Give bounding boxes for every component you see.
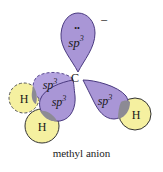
hydrogen-label-back: H [20, 92, 29, 106]
hydrogen-label-front: H [38, 120, 47, 134]
carbon-label: C [71, 71, 79, 85]
hydrogen-label-right: H [132, 108, 141, 122]
methyl-anion-diagram: •• sp3 − C sp3 sp3 sp3 H H H methyl anio… [0, 0, 163, 172]
charge-label: − [100, 13, 107, 28]
lone-pair-dots: •• [74, 24, 80, 33]
diagram-caption: methyl anion [0, 147, 163, 159]
